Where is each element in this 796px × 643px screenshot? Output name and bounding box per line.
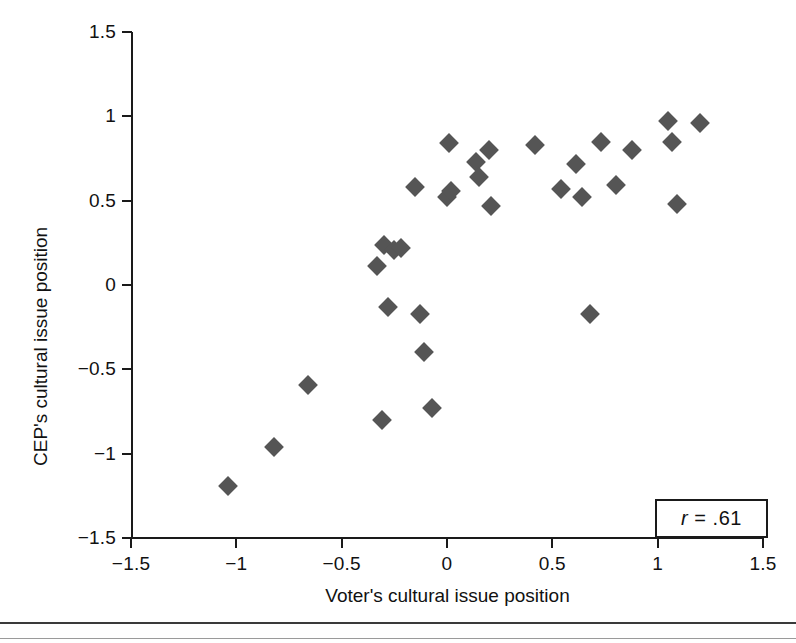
x-axis-title: Voter's cultural issue position [131, 585, 764, 607]
x-tick [341, 538, 343, 548]
y-tick-label: −1 [94, 443, 116, 465]
y-tick-label: 0.5 [89, 190, 116, 212]
x-tick [446, 538, 448, 548]
x-tick [130, 538, 132, 548]
x-tick-label: 1.5 [749, 553, 776, 575]
page-rule-bottom [0, 638, 796, 639]
y-tick-label: −1.5 [78, 527, 116, 549]
y-tick-label: 1.5 [89, 21, 116, 43]
x-tick [657, 538, 659, 548]
correlation-annotation-box: r = .61 [655, 499, 768, 538]
y-tick-label: 1 [105, 105, 116, 127]
y-tick-label: −0.5 [78, 358, 116, 380]
x-tick-label: −0.5 [323, 553, 361, 575]
x-tick-label: 0 [442, 553, 453, 575]
plot-data-area [131, 32, 763, 538]
page-rule-top [0, 622, 796, 624]
x-tick-label: 1 [652, 553, 663, 575]
x-tick [235, 538, 237, 548]
scatter-plot-figure: −1.5−1−0.500.511.5 −1.5−1−0.500.511.5 Vo… [0, 0, 796, 643]
y-axis-tick-labels: −1.5−1−0.500.511.5 [0, 0, 116, 643]
x-tick [551, 538, 553, 548]
x-tick-label: 0.5 [539, 553, 566, 575]
y-tick-label: 0 [105, 274, 116, 296]
correlation-value: = .61 [688, 507, 742, 530]
correlation-symbol: r [681, 507, 688, 530]
x-tick-label: −1 [225, 553, 247, 575]
x-tick-label: −1.5 [112, 553, 150, 575]
x-tick [762, 538, 764, 548]
y-axis-title: CEP's cultural issue position [30, 227, 52, 466]
